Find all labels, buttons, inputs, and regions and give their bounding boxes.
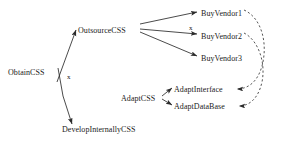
edge-vendor2-to-adaptdatabase xyxy=(239,33,263,106)
edge-outsource-to-vendor1 xyxy=(140,12,197,24)
node-obtain-css[interactable]: ObtainCSS xyxy=(8,68,44,77)
node-outsource-css[interactable]: OutsourceCSS xyxy=(78,26,126,35)
edge-outsource-to-vendor3 xyxy=(140,32,197,56)
edge-adapt-to-adaptinterface xyxy=(162,88,172,96)
edge-label-deny-develop: x xyxy=(67,73,71,81)
node-adapt-css[interactable]: AdaptCSS xyxy=(121,94,155,103)
node-buy-vendor1[interactable]: BuyVendor1 xyxy=(201,9,242,18)
edge-vendor1-to-adaptinterface xyxy=(237,10,264,89)
diagram-canvas: ObtainCSS OutsourceCSS DevelopInternally… xyxy=(0,0,282,144)
node-develop-internally-css[interactable]: DevelopInternallyCSS xyxy=(62,125,135,134)
node-adapt-database[interactable]: AdaptDataBase xyxy=(174,102,225,111)
node-buy-vendor3[interactable]: BuyVendor3 xyxy=(201,54,242,63)
edge-label-deny-vendor2: x xyxy=(189,24,193,32)
edge-adapt-to-adaptdatabase xyxy=(162,99,172,105)
node-buy-vendor2[interactable]: BuyVendor2 xyxy=(201,32,242,41)
node-adapt-interface[interactable]: AdaptInterface xyxy=(174,85,223,94)
